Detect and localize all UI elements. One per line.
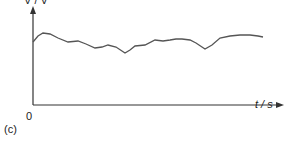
x-axis-label: t / s: [255, 98, 273, 110]
x-axis-arrow-icon: [276, 102, 284, 108]
origin-label: 0: [26, 110, 32, 122]
chart: [0, 0, 297, 154]
figure-label: (c): [4, 123, 17, 135]
voltage-curve: [33, 33, 263, 53]
y-axis-label: V / V: [24, 0, 48, 6]
y-axis-arrow-icon: [30, 6, 36, 14]
